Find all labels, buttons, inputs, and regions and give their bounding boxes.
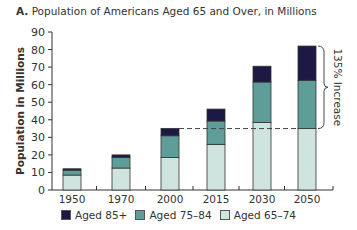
bar-segment xyxy=(63,169,81,170)
increase-annotation-label: 135% Increase xyxy=(332,48,344,126)
bar-segment xyxy=(207,121,225,144)
legend-swatch-75-84 xyxy=(135,210,145,220)
y-tick-label: 0 xyxy=(38,184,45,197)
bar-segment xyxy=(63,175,81,190)
bar-segment xyxy=(112,155,130,158)
y-tick-label: 10 xyxy=(31,166,45,179)
bar-segment xyxy=(207,144,225,190)
bar-segment xyxy=(161,136,179,158)
stacked-bar-chart: 0102030405060708090Population in Million… xyxy=(0,0,357,230)
y-tick-label: 70 xyxy=(31,61,45,74)
legend-swatch-65-74 xyxy=(220,210,230,220)
bar-segment xyxy=(63,170,81,175)
bar-segment xyxy=(298,80,316,128)
bar-segment xyxy=(161,158,179,190)
x-tick-label: 2015 xyxy=(203,193,230,205)
y-tick-label: 90 xyxy=(31,26,45,39)
y-tick-label: 20 xyxy=(31,149,45,162)
bar-segment xyxy=(112,158,130,169)
x-tick-label: 2050 xyxy=(294,193,321,205)
legend-item-65-74: Aged 65–74 xyxy=(220,209,296,221)
y-tick-label: 60 xyxy=(31,79,45,92)
y-tick-label: 40 xyxy=(31,114,45,127)
bar-segment xyxy=(298,46,316,80)
bar-segment xyxy=(161,128,179,135)
x-tick-label: 2030 xyxy=(249,193,276,205)
legend-swatch-85plus xyxy=(61,210,71,220)
y-axis-label: Population in Millions xyxy=(14,47,26,175)
bar-segment xyxy=(253,122,271,190)
legend: Aged 85+ Aged 75–84 Aged 65–74 xyxy=(0,209,357,221)
legend-item-85plus: Aged 85+ xyxy=(61,209,127,221)
bar-segment xyxy=(112,168,130,190)
y-tick-label: 80 xyxy=(31,44,45,57)
legend-label: Aged 85+ xyxy=(75,209,127,221)
bar-segment xyxy=(207,109,225,121)
x-tick-label: 2000 xyxy=(157,193,184,205)
bar-segment xyxy=(298,129,316,190)
brace-annotation xyxy=(318,46,328,129)
legend-label: Aged 65–74 xyxy=(234,209,296,221)
x-tick-label: 1950 xyxy=(59,193,86,205)
bar-segment xyxy=(253,66,271,82)
y-tick-label: 30 xyxy=(31,131,45,144)
legend-item-75-84: Aged 75–84 xyxy=(135,209,211,221)
legend-label: Aged 75–84 xyxy=(149,209,211,221)
bar-segment xyxy=(253,82,271,122)
x-tick-label: 1970 xyxy=(108,193,135,205)
y-tick-label: 50 xyxy=(31,96,45,109)
